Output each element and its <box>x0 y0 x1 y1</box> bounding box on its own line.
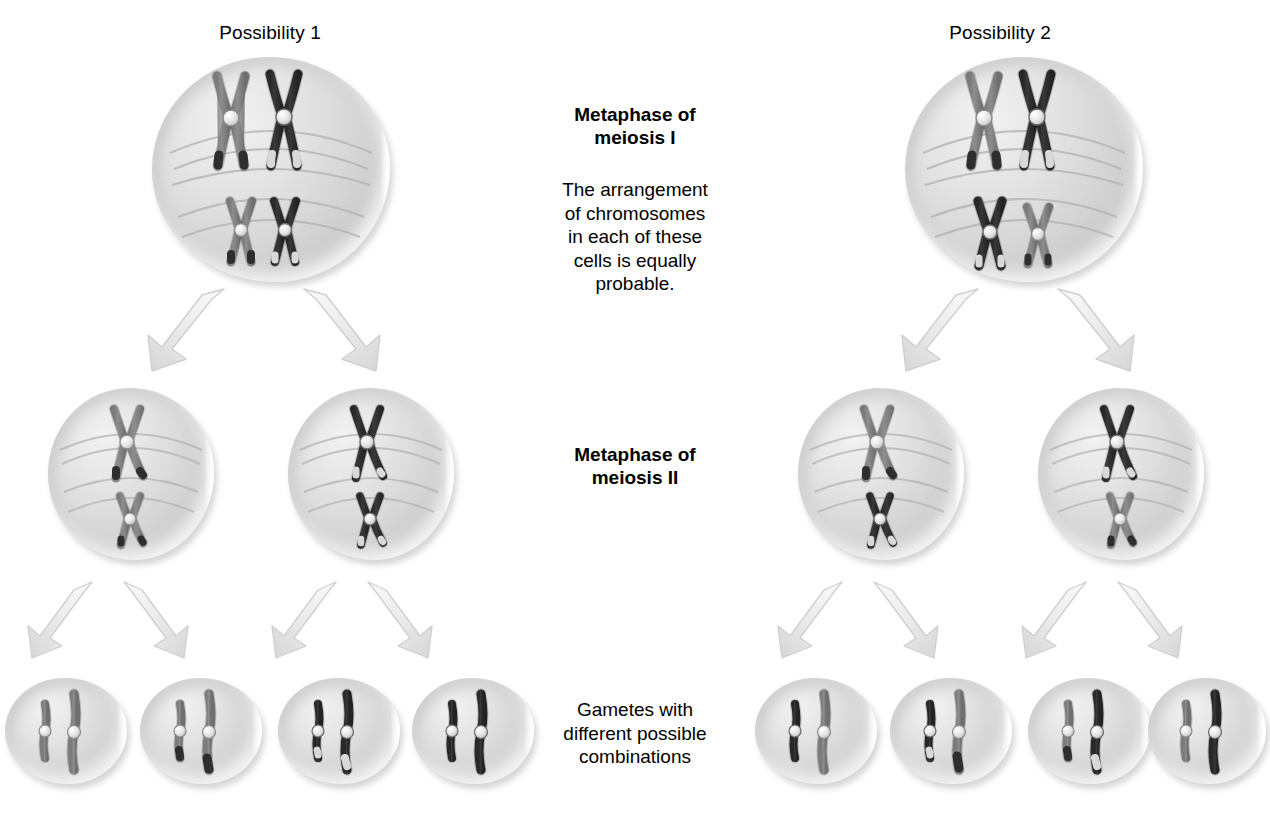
chromosome-long-dark-right <box>257 69 311 173</box>
caption-meiosis-ii-line1: Metaphase of <box>520 443 750 466</box>
caption-meiosis-ii: Metaphase of meiosis II <box>520 443 750 489</box>
caption-body-line2: of chromosomes <box>520 202 750 226</box>
caption-meiosis-i-line1: Metaphase of <box>520 103 750 126</box>
caption-gametes-line1: Gametes with <box>520 698 750 722</box>
gamete-p1-3 <box>278 678 400 784</box>
chromosome-long-dark <box>1093 404 1141 484</box>
chromosome-long-light-left <box>204 71 258 173</box>
cell-meiosis-i-possibility-1 <box>152 57 390 282</box>
chromosome-short-light-left <box>220 197 262 267</box>
cell-meiosis-i-possibility-2 <box>905 57 1143 282</box>
chromatid-short-light <box>1178 700 1194 762</box>
arrow-p2-m2a-to-gamete-1 <box>758 578 848 660</box>
caption-body-line1: The arrangement <box>520 178 750 202</box>
gamete-p2-4 <box>1148 678 1266 784</box>
chromatid-long-dark <box>472 690 490 774</box>
chromatid-long-dark <box>338 690 356 774</box>
chromatid-short-light <box>37 700 53 762</box>
chromatid-short-dark <box>922 700 938 762</box>
meiosis-diagram: Possibility 1 Possibility 2 Metaphase of… <box>0 0 1270 815</box>
chromatid-long-dark <box>1206 690 1224 774</box>
chromosome-short-dark <box>860 492 900 550</box>
caption-body-line4: cells is equally <box>520 249 750 273</box>
chromosome-short-light-right <box>1017 203 1059 269</box>
gamete-p1-2 <box>140 678 262 784</box>
gamete-p1-1 <box>5 678 127 784</box>
cell-meiosis-ii-p2-right <box>1038 388 1204 560</box>
arrow-p1-m2a-to-gamete-1 <box>8 578 98 660</box>
cell-meiosis-ii-p1-right <box>288 388 454 560</box>
arrow-p1-m2b-to-gamete-3 <box>252 578 342 660</box>
chromosome-long-dark <box>343 404 391 484</box>
chromosome-long-light <box>103 404 151 484</box>
arrow-p1-m1-to-m2-left <box>118 285 228 375</box>
chromosome-long-dark-right <box>1010 69 1064 173</box>
cell-meiosis-ii-p2-left <box>798 388 964 560</box>
arrow-p2-m2a-to-gamete-2 <box>868 578 958 660</box>
caption-body-line5: probable. <box>520 272 750 296</box>
arrow-p1-m2a-to-gamete-2 <box>118 578 208 660</box>
gamete-p2-2 <box>890 678 1012 784</box>
caption-meiosis-i: Metaphase of meiosis I <box>520 103 750 149</box>
chromatid-long-light <box>200 690 218 774</box>
caption-meiosis-i-line2: meiosis I <box>520 126 750 149</box>
chromatid-short-dark <box>310 700 326 762</box>
arrow-p2-m2b-to-gamete-3 <box>1002 578 1092 660</box>
arrow-p1-m1-to-m2-right <box>300 285 410 375</box>
gamete-p2-1 <box>755 678 877 784</box>
chromatid-short-dark <box>787 700 803 762</box>
chromosome-long-light-left <box>957 71 1011 173</box>
cell-meiosis-ii-p1-left <box>48 388 214 560</box>
chromosome-long-light <box>853 404 901 484</box>
chromatid-short-light <box>1060 700 1076 762</box>
caption-meiosis-ii-line2: meiosis II <box>520 466 750 489</box>
caption-gametes-line2: different possible <box>520 722 750 746</box>
chromosome-short-light <box>110 492 150 550</box>
chromatid-short-light <box>172 700 188 762</box>
chromatid-long-dark <box>1088 690 1106 774</box>
arrow-p2-m1-to-m2-left <box>872 285 982 375</box>
arrow-p2-m1-to-m2-right <box>1054 285 1164 375</box>
chromatid-long-light <box>815 690 833 774</box>
chromosome-short-dark-left <box>967 197 1013 271</box>
gamete-p2-3 <box>1028 678 1150 784</box>
column-title-possibility-1: Possibility 1 <box>155 22 385 44</box>
arrow-p2-m2b-to-gamete-4 <box>1112 578 1202 660</box>
chromatid-long-light <box>950 690 968 774</box>
column-title-possibility-2: Possibility 2 <box>885 22 1115 44</box>
caption-probability-body: The arrangement of chromosomes in each o… <box>520 178 750 296</box>
chromosome-short-dark-right <box>264 197 306 267</box>
chromosome-short-light <box>1100 492 1140 550</box>
chromatid-short-dark <box>444 700 460 762</box>
caption-body-line3: in each of these <box>520 225 750 249</box>
arrow-p1-m2b-to-gamete-4 <box>362 578 452 660</box>
chromatid-long-light <box>65 690 83 774</box>
caption-gametes: Gametes with different possible combinat… <box>520 698 750 769</box>
gamete-p1-4 <box>412 678 534 784</box>
chromosome-short-dark <box>350 492 390 550</box>
caption-gametes-line3: combinations <box>520 745 750 769</box>
